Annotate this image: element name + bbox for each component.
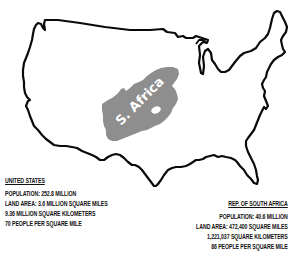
south-africa-stats: REP. OF SOUTH AFRICA POPULATION: 40.6 MI…: [196, 199, 288, 252]
south-africa-density: 86 PEOPLE PER SQUARE MILE: [196, 242, 288, 252]
united-states-land-area-miles: LAND AREA: 3.6 MILLION SQUARE MILES: [5, 199, 108, 209]
united-states-land-area-km: 9.36 MILLION SQUARE KILOMETERS: [5, 209, 108, 219]
united-states-heading: UNITED STATES: [5, 176, 108, 186]
south-africa-land-area-km: 1,221,037 SQUARE KILOMETERS: [196, 232, 288, 242]
united-states-density: 70 PEOPLE PER SQUARE MILE: [5, 219, 108, 229]
south-africa-land-area-miles: LAND AREA: 472,400 SQUARE MILES: [196, 222, 288, 232]
south-africa-population: POPULATION: 40.6 MILLION: [196, 212, 288, 222]
united-states-population: POPULATION: 252.8 MILLION: [5, 189, 108, 199]
united-states-stats: UNITED STATES POPULATION: 252.8 MILLION …: [5, 176, 108, 229]
south-africa-heading: REP. OF SOUTH AFRICA: [196, 199, 288, 209]
